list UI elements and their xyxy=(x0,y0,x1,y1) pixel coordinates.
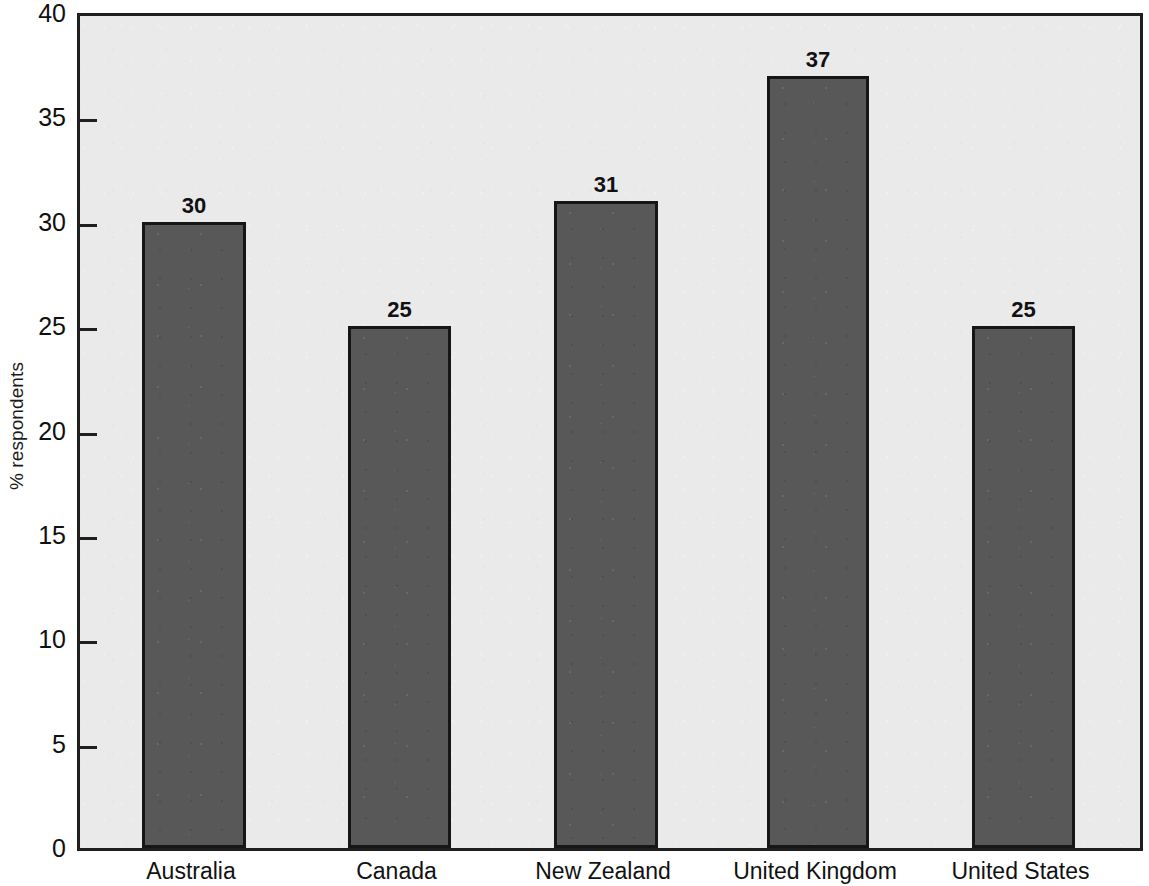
y-axis-tick-label: 40 xyxy=(8,0,66,28)
plot-area: 3025313725 xyxy=(77,13,1143,851)
bar-value-label: 30 xyxy=(182,193,206,219)
y-axis-tick-mark xyxy=(80,224,97,227)
y-axis-tick-mark xyxy=(80,433,97,436)
x-axis-category-label: Canada xyxy=(356,858,437,885)
x-axis-category-label: United Kingdom xyxy=(733,858,897,885)
bar-value-label: 25 xyxy=(1011,297,1035,323)
bar xyxy=(142,222,246,848)
bar-value-label: 31 xyxy=(594,172,618,198)
bar xyxy=(972,326,1075,848)
y-axis-tick-mark xyxy=(80,119,97,122)
y-axis-tick-mark xyxy=(80,746,97,749)
y-axis-tick-label: 30 xyxy=(8,207,66,236)
x-axis-category-label: Australia xyxy=(146,858,235,885)
y-axis-tick-label: 20 xyxy=(8,416,66,445)
bar-value-label: 37 xyxy=(806,47,830,73)
y-axis-tick-label: 35 xyxy=(8,103,66,132)
y-axis-tick-labels: 0510152025303540 xyxy=(0,13,66,851)
bar xyxy=(348,326,451,848)
y-axis-tick-mark xyxy=(80,537,97,540)
y-axis-tick-label: 10 xyxy=(8,625,66,654)
x-axis-category-labels: AustraliaCanadaNew ZealandUnited Kingdom… xyxy=(0,858,1149,886)
x-axis-category-label: New Zealand xyxy=(535,858,671,885)
bar xyxy=(554,201,658,848)
chart-figure: % respondents 0510152025303540 302531372… xyxy=(0,0,1149,886)
y-axis-tick-label: 25 xyxy=(8,312,66,341)
x-axis-category-label: United States xyxy=(951,858,1089,885)
y-axis-tick-label: 5 xyxy=(8,729,66,758)
y-axis-tick-mark xyxy=(80,328,97,331)
y-axis-tick-label: 15 xyxy=(8,520,66,549)
y-axis-tick-mark xyxy=(80,641,97,644)
bar xyxy=(767,76,869,848)
bar-value-label: 25 xyxy=(387,297,411,323)
